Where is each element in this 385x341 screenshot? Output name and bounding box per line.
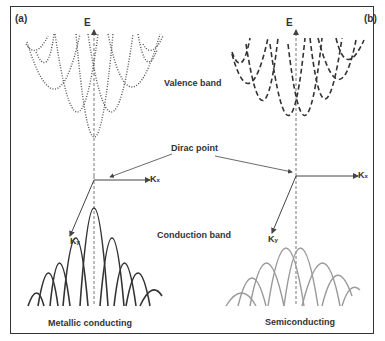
kx-label-a: Kx xyxy=(150,174,160,184)
caption-semiconducting: Semiconducting xyxy=(265,317,335,327)
conduction-band-a xyxy=(28,208,162,306)
conduction-band-b xyxy=(226,248,360,306)
conduction-band-label: Conduction band xyxy=(157,230,231,240)
ky-label-b: Ky xyxy=(268,234,278,244)
valence-band-label: Valence band xyxy=(164,78,222,88)
panel-b-tag: (b) xyxy=(364,13,377,24)
kx-label-b: Kx xyxy=(358,170,368,180)
energy-label-b: E xyxy=(286,17,293,28)
dirac-point-label: Dirac point xyxy=(171,143,218,153)
caption-metallic: Metallic conducting xyxy=(48,318,132,328)
band-structure-diagram xyxy=(0,0,385,341)
valence-band-b xyxy=(232,38,364,116)
energy-label-a: E xyxy=(84,17,91,28)
ky-label-a: Ky xyxy=(70,236,80,246)
panel-a-tag: (a) xyxy=(15,13,27,24)
